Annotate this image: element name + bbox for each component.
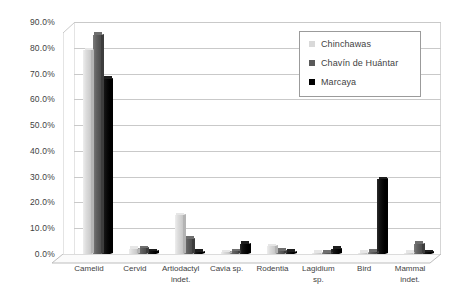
bar-side: [385, 178, 388, 254]
gridline: [74, 151, 441, 152]
legend-swatch-icon: [309, 79, 315, 85]
bar: [312, 253, 320, 254]
bar-face: [267, 246, 275, 254]
bar: [358, 253, 366, 254]
bar: [194, 252, 202, 254]
bar-face: [368, 252, 376, 254]
bar: [83, 50, 91, 254]
y-axis-tick-label: 60.0%: [30, 94, 55, 104]
chart-legend: Chinchawas Chavín de Huántar Marcaya: [299, 31, 421, 97]
bar: [286, 252, 294, 254]
y-axis-tick-label: 40.0%: [30, 146, 55, 156]
x-axis-tick-label: Lagidium sp.: [295, 264, 341, 285]
x-axis-tick-label: Cervid: [112, 264, 158, 275]
bar-side: [192, 238, 195, 254]
bar-face: [148, 251, 156, 254]
legend-label: Chinchawas: [321, 39, 371, 49]
bar-side: [110, 78, 113, 254]
y-axis-tick-label: 10.0%: [30, 223, 55, 233]
bar-face: [129, 249, 137, 254]
bar: [322, 253, 330, 254]
bar-group: [74, 22, 120, 254]
legend-label: Chavín de Huántar: [321, 58, 398, 68]
bar-group: [120, 22, 166, 254]
bar-side: [183, 214, 186, 254]
gridline: [74, 99, 441, 100]
x-axis-tick-label: Bird: [341, 264, 387, 275]
y-axis-tick-label: 20.0%: [30, 197, 55, 207]
x-axis-tick-label: Camelid: [66, 264, 112, 275]
y-axis-tick-label: 90.0%: [30, 17, 55, 27]
legend-swatch-icon: [309, 41, 315, 47]
bar-face: [322, 253, 330, 254]
bar-side: [422, 243, 425, 254]
bar-group: [166, 22, 212, 254]
y-axis-tick-label: 30.0%: [30, 172, 55, 182]
bar-face: [175, 215, 183, 254]
bar-face: [377, 179, 385, 254]
bar: [414, 244, 422, 254]
x-axis-tick-label: Mammal indet.: [387, 264, 433, 285]
x-axis-tick-label: Rodentia: [250, 264, 296, 275]
plot-floor: [52, 254, 441, 263]
bar-side: [248, 243, 251, 254]
bar: [267, 246, 275, 254]
bar: [129, 249, 137, 254]
bar: [377, 179, 385, 254]
y-axis-tick-label: 70.0%: [30, 69, 55, 79]
legend-item-2: Marcaya: [309, 77, 356, 87]
bar-face: [83, 50, 91, 254]
legend-swatch-icon: [309, 60, 315, 66]
bar-group: [258, 22, 304, 254]
bar-side: [101, 34, 104, 254]
y-axis-tick-label: 50.0%: [30, 120, 55, 130]
bar-side: [91, 49, 94, 254]
bar-face: [404, 253, 412, 254]
legend-item-1: Chavín de Huántar: [309, 58, 398, 68]
chart-container: 0.0%10.0%20.0%30.0%40.0%50.0%60.0%70.0%8…: [0, 0, 457, 306]
x-axis-tick-label: Cavia sp.: [204, 264, 250, 275]
bar-face: [286, 252, 294, 254]
bar-face: [358, 253, 366, 254]
bar-face: [240, 244, 248, 254]
legend-item-0: Chinchawas: [309, 39, 371, 49]
bar-face: [221, 252, 229, 254]
bar-face: [414, 244, 422, 254]
bar: [93, 35, 101, 254]
bar-group: [212, 22, 258, 254]
x-axis-tick-label: Artiodactyl indet.: [158, 264, 204, 285]
bar: [175, 215, 183, 254]
bar: [148, 251, 156, 254]
y-axis-tick-label: 80.0%: [30, 43, 55, 53]
bar-face: [194, 252, 202, 254]
bar: [404, 253, 412, 254]
bar: [221, 252, 229, 254]
bar-side: [275, 245, 278, 254]
gridline: [74, 22, 441, 23]
bar-face: [312, 253, 320, 254]
legend-label: Marcaya: [321, 77, 356, 87]
bar: [240, 244, 248, 254]
x-axis: CamelidCervidArtiodactyl indet.Cavia sp.…: [63, 264, 441, 306]
bar-face: [93, 35, 101, 254]
bar: [368, 252, 376, 254]
gridline: [74, 125, 441, 126]
